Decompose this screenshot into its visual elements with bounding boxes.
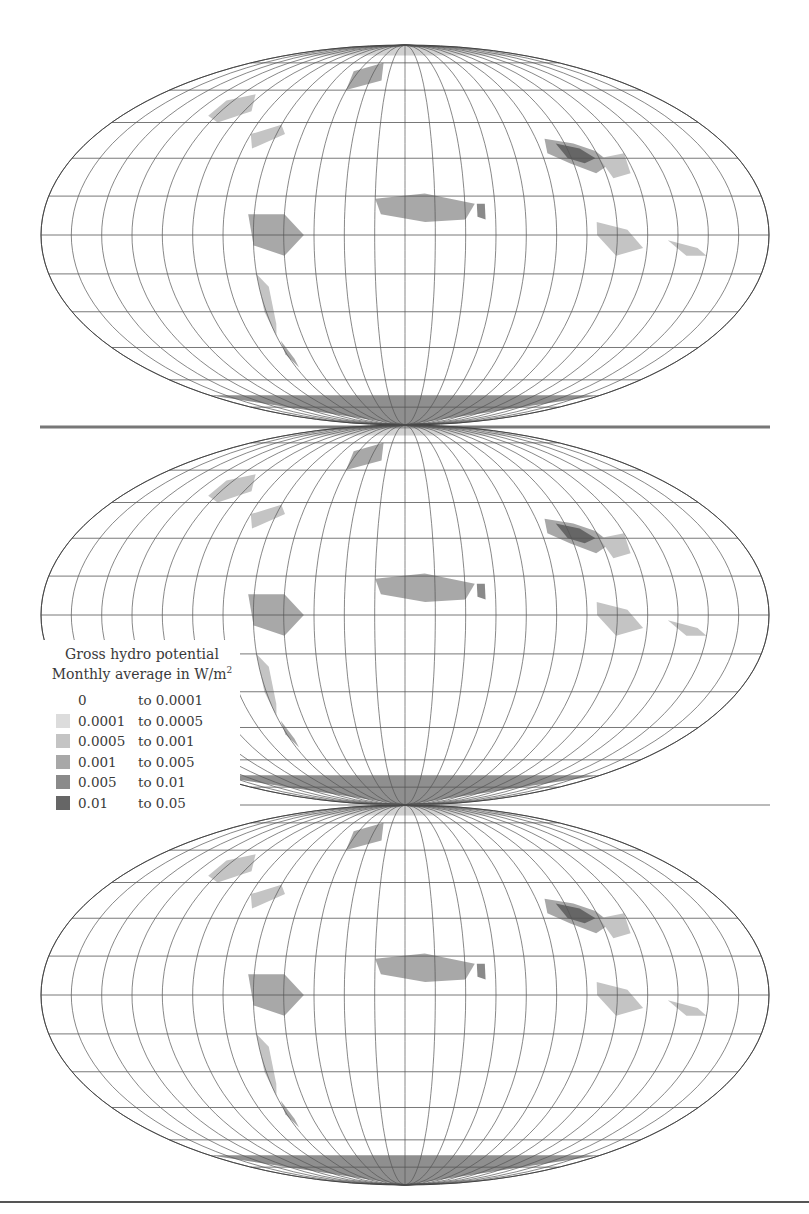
legend-swatch	[56, 755, 70, 769]
legend-from: 0	[78, 692, 138, 708]
legend-from: 0.0001	[78, 713, 138, 729]
legend-to: to 0.005	[138, 754, 195, 770]
legend-swatch	[56, 796, 70, 810]
hydro-potential-region	[477, 964, 486, 980]
hydro-potential-region	[257, 654, 277, 716]
hydro-potential-region	[668, 1000, 707, 1016]
legend-swatch	[56, 734, 70, 748]
legend-to: to 0.001	[138, 733, 195, 749]
hydro-potential-region	[668, 240, 707, 256]
map-panel-3	[41, 805, 769, 1185]
legend-row: 0.001to 0.005	[56, 752, 240, 773]
hydro-potential-region	[257, 1034, 277, 1096]
hydro-potential-region	[346, 823, 384, 850]
legend-row: 0.005to 0.01	[56, 772, 240, 793]
hydro-potential-region	[668, 620, 707, 636]
legend-rows: 0to 0.0001 0.0001to 0.0005 0.0005to 0.00…	[56, 690, 240, 813]
legend: Gross hydro potential Monthly average in…	[40, 640, 240, 813]
hydro-potential-region	[281, 721, 300, 748]
legend-from: 0.001	[78, 754, 138, 770]
legend-to: to 0.05	[138, 795, 186, 811]
page-footer-rule	[0, 1201, 809, 1203]
legend-row: 0to 0.0001	[56, 690, 240, 711]
hydro-potential-region	[375, 954, 475, 983]
legend-title-line1: Gross hydro potential	[44, 644, 240, 664]
hydro-potential-region	[281, 341, 300, 368]
legend-row: 0.0005to 0.001	[56, 731, 240, 752]
hydro-potential-region	[346, 443, 384, 470]
legend-swatch	[56, 693, 70, 707]
hydro-potential-region	[375, 574, 475, 603]
legend-to: to 0.01	[138, 774, 186, 790]
legend-to: to 0.0005	[138, 713, 203, 729]
legend-from: 0.005	[78, 774, 138, 790]
hydro-potential-region	[257, 274, 277, 336]
hydro-potential-region	[281, 1101, 300, 1128]
legend-from: 0.0005	[78, 733, 138, 749]
hydro-potential-region	[597, 222, 643, 256]
map-panel-1	[40, 45, 770, 427]
legend-from: 0.01	[78, 795, 138, 811]
hydro-potential-region	[477, 584, 486, 600]
hydro-potential-region	[477, 204, 486, 220]
map-figure	[0, 0, 809, 1214]
hydro-potential-region	[597, 982, 643, 1016]
hydro-potential-region	[375, 194, 475, 223]
hydro-potential-region	[346, 63, 384, 90]
legend-swatch	[56, 714, 70, 728]
legend-swatch	[56, 775, 70, 789]
legend-title: Gross hydro potential Monthly average in…	[40, 644, 240, 684]
legend-title-line2: Monthly average in W/m2	[44, 664, 240, 684]
legend-row: 0.01to 0.05	[56, 793, 240, 814]
legend-row: 0.0001to 0.0005	[56, 711, 240, 732]
legend-to: to 0.0001	[138, 692, 203, 708]
hydro-potential-region	[597, 602, 643, 636]
